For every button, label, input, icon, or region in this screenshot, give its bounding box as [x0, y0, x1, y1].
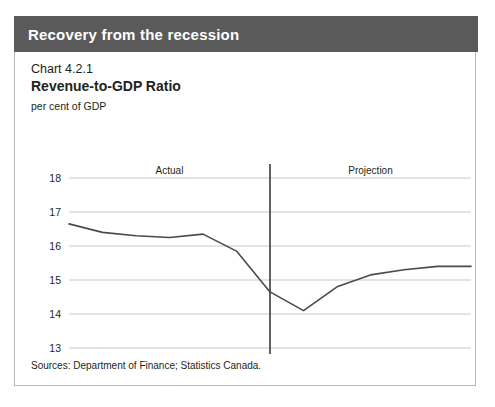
y-tick-label: 14 [49, 308, 61, 320]
section-header-bar: Recovery from the recession [14, 16, 478, 52]
screenshot-root: Recovery from the recession Chart 4.2.1 … [0, 0, 495, 407]
line-chart: 12131415161718 2002–20032003–20042004–20… [15, 114, 477, 354]
section-header-title: Recovery from the recession [14, 26, 239, 43]
y-tick-label: 15 [49, 274, 61, 286]
source-note: Sources: Department of Finance; Statisti… [31, 360, 261, 371]
plot-annotation: Actual [156, 165, 184, 176]
plot-annotation: Projection [348, 165, 392, 176]
chart-card: Chart 4.2.1 Revenue-to-GDP Ratio per cen… [14, 52, 476, 386]
chart-units-label: per cent of GDP [31, 100, 106, 112]
y-tick-label: 18 [49, 172, 61, 184]
annotations: ActualProjection [156, 165, 393, 176]
y-tick-label: 16 [49, 240, 61, 252]
chart-number: Chart 4.2.1 [31, 62, 93, 76]
chart-title: Revenue-to-GDP Ratio [31, 78, 181, 94]
y-tick-label: 13 [49, 342, 61, 354]
y-axis-labels: 12131415161718 [49, 172, 61, 354]
y-tick-label: 17 [49, 206, 61, 218]
